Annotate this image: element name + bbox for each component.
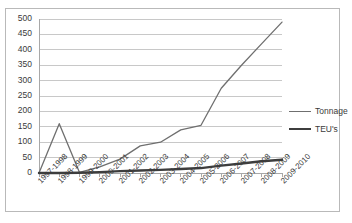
legend-item[interactable]: Tonnage (289, 102, 351, 120)
y-tick-label: 200 (6, 106, 32, 115)
legend-line-icon (289, 128, 311, 130)
legend-label: TEU's (315, 124, 338, 134)
y-tick-label: 0 (6, 168, 32, 177)
y-tick-label: 400 (6, 45, 32, 54)
chart-frame: 500450400350300250200150100500 1997-1998… (5, 8, 340, 212)
chart-figure: 500450400350300250200150100500 1997-1998… (0, 0, 352, 223)
y-tick-label: 500 (6, 14, 32, 23)
y-tick-label: 150 (6, 122, 32, 131)
y-tick-label: 300 (6, 76, 32, 85)
y-tick-label: 100 (6, 137, 32, 146)
y-tick-label: 350 (6, 60, 32, 69)
y-tick-label: 250 (6, 91, 32, 100)
y-tick-label: 50 (6, 153, 32, 162)
legend-line-icon (289, 111, 311, 112)
legend-item[interactable]: TEU's (289, 120, 351, 138)
chart-legend: TonnageTEU's (289, 102, 351, 138)
series-line-tonnage (39, 22, 282, 173)
y-tick-label: 450 (6, 29, 32, 38)
legend-label: Tonnage (315, 106, 348, 116)
